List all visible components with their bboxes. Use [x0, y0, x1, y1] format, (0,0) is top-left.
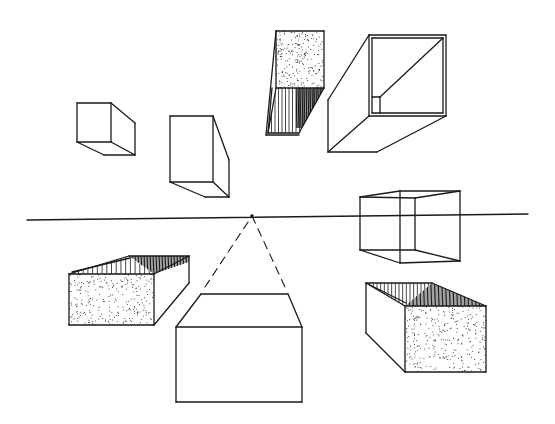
stipple-dot — [452, 312, 453, 313]
stipple-dot — [299, 71, 300, 72]
stipple-dot — [455, 350, 456, 351]
stipple-dot — [90, 298, 91, 299]
stipple-dot — [95, 321, 96, 322]
stipple-dot — [449, 367, 450, 368]
stipple-dot — [83, 313, 84, 314]
stipple-dot — [445, 340, 446, 341]
stipple-dot — [301, 78, 302, 79]
stipple-dot — [132, 318, 133, 319]
stipple-dot — [438, 354, 439, 355]
stipple-dot — [280, 56, 281, 57]
stipple-dot — [307, 39, 308, 40]
stipple-dot — [140, 288, 141, 289]
stipple-dot — [304, 68, 305, 69]
stipple-dot — [434, 356, 435, 357]
stipple-dot — [315, 41, 316, 42]
stipple-dot — [406, 308, 407, 309]
stipple-dot — [284, 33, 285, 34]
stipple-dot — [90, 312, 91, 313]
stipple-dot — [475, 334, 476, 335]
stipple-dot — [278, 52, 279, 53]
stipple-dot — [412, 332, 413, 333]
stipple-dot — [134, 306, 135, 307]
stipple-dot — [447, 323, 448, 324]
stipple-dot — [450, 328, 451, 329]
stipple-dot — [113, 283, 114, 284]
stipple-dot — [137, 302, 138, 303]
stipple-dot — [435, 322, 436, 323]
stipple-dot — [282, 43, 283, 44]
stipple-dot — [310, 67, 311, 68]
stipple-dot — [109, 315, 110, 316]
stipple-dot — [100, 278, 101, 279]
stipple-dot — [132, 285, 133, 286]
stipple-dot — [313, 45, 314, 46]
stipple-dot — [151, 283, 152, 284]
stipple-dot — [287, 73, 288, 74]
stipple-dot — [121, 287, 122, 288]
stipple-dot — [127, 279, 128, 280]
stipple-dot — [284, 76, 285, 77]
perspective-drawing — [0, 0, 555, 424]
stipple-dot — [104, 279, 105, 280]
stipple-dot — [471, 318, 472, 319]
stipple-dot — [100, 316, 101, 317]
stipple-dot — [459, 368, 460, 369]
stipple-dot — [461, 357, 462, 358]
stipple-dot — [471, 357, 472, 358]
stipple-dot — [318, 72, 319, 73]
stipple-dot — [317, 86, 318, 87]
stipple-dot — [118, 306, 119, 307]
stipple-dot — [280, 54, 281, 55]
stipple-dot — [308, 40, 309, 41]
stipple-dot — [417, 364, 418, 365]
stipple-dot — [453, 352, 454, 353]
stipple-dot — [133, 291, 134, 292]
stipple-dot — [480, 341, 481, 342]
stipple-dot — [281, 59, 282, 60]
stipple-dot — [451, 318, 452, 319]
stipple-dot — [303, 43, 304, 44]
stipple-dot — [85, 314, 86, 315]
stipple-dot — [409, 364, 410, 365]
stipple-dot — [448, 356, 449, 357]
stipple-dot — [133, 284, 134, 285]
stipple-dot — [297, 44, 298, 45]
stipple-dot — [461, 356, 462, 357]
stipple-dot — [136, 275, 137, 276]
stipple-dot — [282, 76, 283, 77]
stipple-dot — [139, 304, 140, 305]
stipple-dot — [414, 338, 415, 339]
stipple-dot — [71, 302, 72, 303]
stipple-dot — [408, 326, 409, 327]
stipple-dot — [71, 321, 72, 322]
stipple-dot — [411, 356, 412, 357]
stipple-dot — [283, 75, 284, 76]
stipple-dot — [320, 44, 321, 45]
stipple-dot — [443, 330, 444, 331]
stipple-dot — [319, 37, 320, 38]
stipple-dot — [308, 71, 309, 72]
stipple-dot — [288, 85, 289, 86]
stipple-dot — [413, 364, 414, 365]
stipple-dot — [315, 73, 316, 74]
stipple-dot — [415, 366, 416, 367]
stipple-dot — [298, 54, 299, 55]
stipple-dot — [117, 312, 118, 313]
stipple-dot — [131, 299, 132, 300]
stipple-dot — [469, 354, 470, 355]
stipple-dot — [109, 311, 110, 312]
stipple-dot — [127, 283, 128, 284]
stipple-dot — [123, 323, 124, 324]
stipple-dot — [92, 315, 93, 316]
stipple-dot — [484, 327, 485, 328]
stipple-dot — [137, 311, 138, 312]
stipple-dot — [122, 281, 123, 282]
stipple-dot — [406, 332, 407, 333]
stipple-dot — [299, 44, 300, 45]
paper-background — [0, 0, 555, 424]
stipple-dot — [88, 295, 89, 296]
stipple-dot — [417, 345, 418, 346]
stipple-dot — [93, 305, 94, 306]
stipple-dot — [312, 34, 313, 35]
